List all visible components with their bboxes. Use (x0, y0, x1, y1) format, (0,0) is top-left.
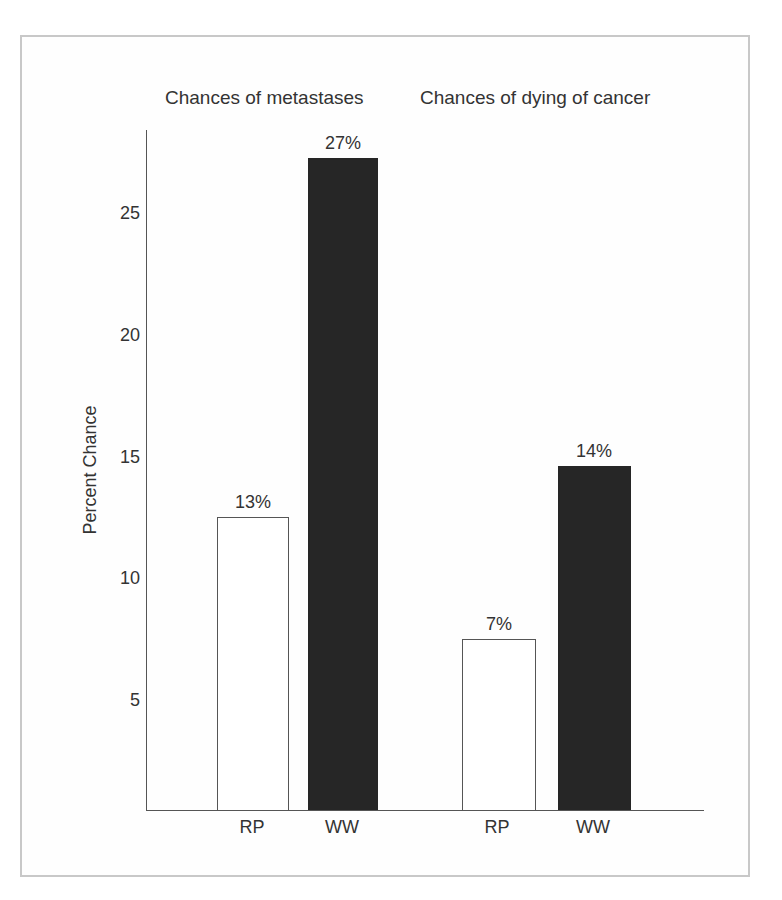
x-axis (146, 810, 704, 811)
bar-dying-rp (462, 639, 536, 810)
x-category-label: WW (302, 817, 382, 838)
bar-dying-ww (558, 466, 631, 810)
y-tick-15: 15 (100, 447, 140, 468)
y-tick-10: 10 (100, 568, 140, 589)
x-category-label: WW (553, 817, 633, 838)
bar-metastases-rp (217, 517, 289, 810)
x-category-label: RP (457, 817, 537, 838)
group-title-dying-of-cancer: Chances of dying of cancer (420, 87, 650, 109)
bar-value-label: 13% (213, 492, 293, 513)
bar-value-label: 14% (554, 441, 634, 462)
bar-value-label: 27% (303, 133, 383, 154)
y-tick-5: 5 (100, 690, 140, 711)
bar-value-label: 7% (459, 614, 539, 635)
y-axis (146, 130, 147, 811)
y-tick-20: 20 (100, 325, 140, 346)
group-title-metastases: Chances of metastases (165, 87, 364, 109)
y-tick-25: 25 (100, 203, 140, 224)
bar-metastases-ww (308, 158, 378, 810)
y-axis-label: Percent Chance (80, 405, 101, 534)
x-category-label: RP (212, 817, 292, 838)
